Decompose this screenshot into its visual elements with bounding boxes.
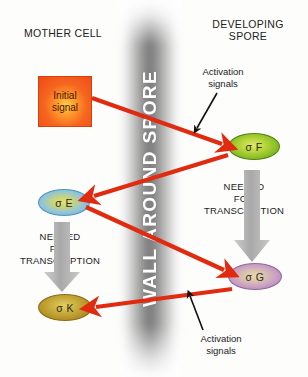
initial-signal-line1: Initial (52, 90, 78, 102)
needed-for-transcription-right: NEEDED FOR TRANSCRIPTION (190, 181, 298, 217)
sigma-factor-k-node: σ K (38, 294, 92, 321)
needed-right-line3: TRANSCRIPTION (190, 205, 298, 217)
heading-developing-spore: DEVELOPING SPORE (196, 18, 300, 42)
activation-signals-label-bottom: Activation signals (180, 333, 262, 356)
needed-right-line2: FOR (190, 193, 298, 205)
spore-wall-band (118, 0, 182, 377)
activation-bottom-line2: signals (180, 345, 262, 357)
needed-left-line3: TRANSCRIPTION (6, 255, 114, 267)
initial-signal-label: Initial signal (52, 90, 78, 114)
sigma-factor-g-node: σ G (228, 263, 282, 290)
initial-signal-line2: signal (52, 102, 78, 114)
heading-mother-cell: MOTHER CELL (12, 27, 114, 39)
needed-for-transcription-left: NEEDED FOR TRANSCRIPTION (6, 231, 114, 267)
needed-left-line2: FOR (6, 243, 114, 255)
sigma-factor-f-node: σ F (228, 133, 280, 160)
initial-signal-box: Initial signal (38, 76, 92, 127)
annotation-arrow-bottom (190, 296, 203, 330)
annotation-arrow-top (197, 93, 217, 128)
activation-bottom-line1: Activation (180, 333, 262, 345)
sigma-factor-k-label: σ K (56, 302, 74, 314)
activation-top-line2: signals (182, 78, 264, 90)
activation-signals-label-top: Activation signals (182, 66, 264, 89)
activation-top-line1: Activation (182, 66, 264, 78)
needed-right-line1: NEEDED (190, 181, 298, 193)
sigma-factor-e-label: σ E (55, 197, 73, 209)
sigma-factor-e-node: σ E (38, 189, 90, 216)
sigma-factor-f-label: σ F (245, 141, 262, 153)
sigma-factor-g-label: σ G (246, 271, 265, 283)
needed-left-line1: NEEDED (6, 231, 114, 243)
sporulation-sigma-factor-diagram: WALL AROUND SPORE MOTHER CELL DEVELOPING… (0, 0, 308, 377)
